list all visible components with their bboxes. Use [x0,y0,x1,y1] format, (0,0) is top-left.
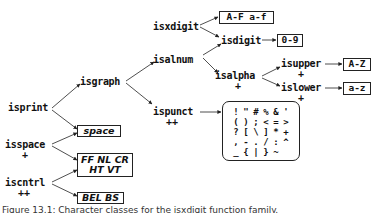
punct-char: * [271,127,281,137]
node-isdigit: isdigit [221,35,261,46]
punct-char: ! [231,107,241,117]
isupper-marker: + [298,69,304,79]
punct-char: : [271,137,281,147]
box-space: space [77,125,121,137]
islower-marker: + [298,93,304,103]
punct-char: | [251,147,261,157]
punct-char: ? [231,127,241,137]
punct-char: % [261,107,271,117]
punct-char: & [271,107,281,117]
punct-char: _ [231,147,241,157]
punct-char: - [241,137,251,147]
punct-char: " [241,107,251,117]
punct-char: < [261,117,271,127]
punctuation-grid: ! " # % & ' ( ) ; < = > ? [ \ ] * + , - … [231,107,291,157]
punct-char: { [241,147,251,157]
box-uppercase: A-Z [343,58,371,71]
box-whitespace: FF NL CR HT VT [77,153,133,177]
figure-caption: Figure 13.1: Character classes for the i… [2,205,278,213]
box-xdigit-letters: A-F a-f [219,11,274,24]
punct-char: > [281,117,291,127]
punct-char: [ [241,127,251,137]
box-digits: 0-9 [277,34,303,47]
punct-char: ~ [271,147,281,157]
punct-char: + [281,127,291,137]
punct-char: / [261,137,271,147]
node-isxdigit: isxdigit [153,21,199,32]
punct-char: ' [281,107,291,117]
isspace-marker: + [22,150,28,160]
node-isprint: isprint [8,102,48,113]
box-control: BEL BS [77,192,124,204]
punct-char: # [251,107,261,117]
punct-char: ] [261,127,271,137]
punct-char: ( [231,117,241,127]
punct-char: } [261,147,271,157]
punct-char: = [271,117,281,127]
punct-char: \ [251,127,261,137]
iscntrl-marker: ++ [18,188,30,198]
node-isalnum: isalnum [153,54,193,65]
ispunct-marker: ++ [166,117,178,127]
punct-char: ) [241,117,251,127]
punct-char: ^ [281,137,291,147]
isalpha-marker: + [235,81,241,91]
node-isgraph: isgraph [80,76,120,87]
punct-char: ; [251,117,261,127]
whitespace-line-2: HT VT [78,165,132,175]
box-punctuation: ! " # % & ' ( ) ; < = > ? [ \ ] * + , - … [222,101,300,161]
punct-char: , [231,137,241,147]
punct-char: . [251,137,261,147]
box-lowercase: a-z [343,82,371,95]
